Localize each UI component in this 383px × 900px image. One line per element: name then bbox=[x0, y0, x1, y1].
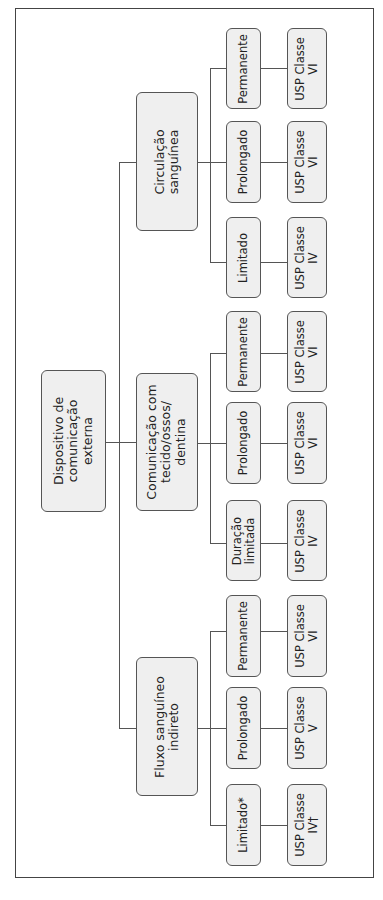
duration-label: Prolongado bbox=[237, 130, 250, 194]
connector bbox=[210, 68, 226, 69]
connector bbox=[210, 162, 226, 163]
duration-node: Prolongado bbox=[226, 121, 261, 203]
connector bbox=[119, 162, 136, 163]
category-comunicacao-tecido: Comunicação com tecido/ossos/ dentina bbox=[136, 373, 198, 511]
duration-node: Limitado* bbox=[226, 784, 261, 866]
duration-node: Prolongado bbox=[226, 687, 261, 769]
category-label: Comunicação com tecido/ossos/ dentina bbox=[145, 384, 188, 499]
classification-label: USP Classe IV† bbox=[294, 793, 320, 857]
duration-node: Duração limitada bbox=[226, 500, 261, 581]
connector bbox=[261, 543, 287, 544]
connector bbox=[261, 353, 287, 354]
category-circulacao-sanguinea: Circulação sanguínea bbox=[136, 92, 198, 231]
connector bbox=[210, 631, 226, 632]
duration-node: Limitado bbox=[226, 217, 261, 298]
duration-label: Prolongado bbox=[237, 696, 250, 760]
classification-label: USP Classe VI bbox=[294, 130, 320, 194]
duration-label: Limitado* bbox=[237, 797, 250, 853]
classification-label: USP Classe VI bbox=[294, 604, 320, 668]
connector bbox=[198, 443, 210, 444]
duration-label: Prolongado bbox=[237, 411, 250, 475]
connector bbox=[210, 728, 226, 729]
category-label: Fluxo sanguíneo indireto bbox=[153, 676, 182, 778]
category-fluxo-sanguineo-indireto: Fluxo sanguíneo indireto bbox=[136, 657, 198, 796]
trunk-line bbox=[119, 162, 120, 728]
connector bbox=[210, 825, 226, 826]
classification-node: USP Classe VI bbox=[287, 402, 327, 484]
connector bbox=[210, 262, 226, 263]
classification-label: USP Classe V bbox=[294, 696, 320, 760]
connector bbox=[261, 68, 287, 69]
duration-node: Permanente bbox=[226, 311, 261, 392]
root-node-label: Dispositivo de comunicação externa bbox=[52, 397, 95, 485]
connector bbox=[261, 443, 287, 444]
connector bbox=[261, 162, 287, 163]
classification-node: USP Classe VI bbox=[287, 311, 327, 392]
classification-node: USP Classe IV† bbox=[287, 784, 327, 866]
classification-label: USP Classe IV bbox=[294, 509, 320, 573]
duration-label: Permanente bbox=[237, 601, 250, 671]
connector bbox=[210, 543, 226, 544]
connector bbox=[210, 443, 226, 444]
classification-node: USP Classe IV bbox=[287, 500, 327, 581]
connector bbox=[261, 262, 287, 263]
classification-node: USP Classe VI bbox=[287, 28, 327, 109]
connector bbox=[261, 825, 287, 826]
duration-label: Duração limitada bbox=[230, 516, 256, 564]
classification-node: USP Classe IV bbox=[287, 217, 327, 298]
classification-label: USP Classe VI bbox=[294, 411, 320, 475]
classification-node: USP Classe V bbox=[287, 687, 327, 769]
classification-label: USP Classe IV bbox=[294, 226, 320, 290]
category-label: Circulação sanguínea bbox=[153, 129, 182, 194]
connector bbox=[198, 162, 210, 163]
duration-label: Limitado bbox=[237, 233, 250, 283]
connector bbox=[119, 728, 136, 729]
classification-node: USP Classe VI bbox=[287, 595, 327, 677]
branch-line bbox=[210, 353, 211, 543]
connector bbox=[261, 631, 287, 632]
connector bbox=[106, 442, 136, 443]
connector bbox=[261, 728, 287, 729]
duration-node: Prolongado bbox=[226, 402, 261, 484]
connector bbox=[210, 353, 226, 354]
classification-node: USP Classe VI bbox=[287, 121, 327, 203]
classification-label: USP Classe VI bbox=[294, 37, 320, 101]
classification-label: USP Classe VI bbox=[294, 320, 320, 384]
duration-node: Permanente bbox=[226, 595, 261, 677]
duration-label: Permanente bbox=[237, 34, 250, 104]
root-node: Dispositivo de comunicação externa bbox=[41, 370, 106, 512]
connector bbox=[198, 728, 210, 729]
duration-label: Permanente bbox=[237, 317, 250, 387]
branch-line bbox=[210, 68, 211, 262]
duration-node: Permanente bbox=[226, 28, 261, 109]
